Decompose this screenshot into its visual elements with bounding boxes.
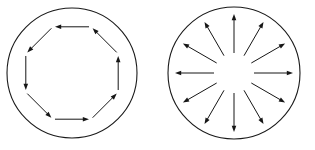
arrow-right: [116, 56, 121, 90]
arrow-bottom-left: [27, 94, 51, 118]
ray-240-head: [205, 118, 210, 125]
ray-330-head: [279, 97, 286, 102]
ray-030: [251, 44, 285, 64]
ray-120: [205, 22, 225, 56]
arrow-top: [55, 25, 89, 30]
arrow-bottom-right-shaft: [93, 97, 114, 118]
ray-330-shaft: [251, 83, 280, 100]
ray-090: [232, 14, 237, 53]
arrow-top-left: [27, 28, 51, 52]
ray-180: [175, 71, 214, 76]
ray-000-head: [287, 71, 293, 76]
ray-210-head: [183, 97, 190, 102]
ray-060-shaft: [244, 26, 261, 55]
arrow-top-head: [55, 25, 61, 30]
arrow-bottom: [55, 117, 89, 122]
ray-270-head: [232, 126, 237, 132]
arrow-bottom-right: [93, 94, 117, 118]
arrow-bottom-left-shaft: [27, 94, 48, 115]
ray-000: [254, 71, 293, 76]
arrow-top-right-shaft: [96, 32, 117, 53]
arrow-right-head: [116, 56, 121, 62]
figure-root: [0, 0, 315, 150]
arrow-top-left-shaft: [31, 28, 52, 49]
ray-210-shaft: [187, 83, 216, 100]
ray-030-shaft: [251, 46, 280, 63]
ray-150-head: [183, 44, 190, 49]
ray-120-shaft: [207, 26, 224, 55]
ray-240-shaft: [207, 90, 224, 119]
ray-150: [183, 44, 217, 64]
rotational-field-circle: [7, 8, 137, 138]
ray-180-head: [175, 71, 181, 76]
ray-330: [251, 83, 285, 103]
ray-210: [183, 83, 217, 103]
arrow-left: [24, 56, 29, 90]
ray-300-head: [258, 118, 263, 125]
ray-240: [205, 90, 225, 124]
arrow-top-right: [93, 28, 117, 52]
ray-300-shaft: [244, 90, 261, 119]
arrow-left-head: [24, 84, 29, 90]
ray-060: [244, 22, 264, 56]
ray-090-head: [232, 14, 237, 20]
ray-060-head: [258, 22, 263, 29]
ray-120-head: [205, 22, 210, 29]
radial-field-panel: [168, 7, 300, 139]
ray-150-shaft: [187, 46, 216, 63]
ray-270: [232, 93, 237, 132]
ray-300: [244, 90, 264, 124]
vector-field-figure: [0, 0, 315, 150]
rotational-field-panel: [7, 8, 137, 138]
arrow-bottom-head: [83, 117, 89, 122]
ray-030-head: [279, 44, 286, 49]
